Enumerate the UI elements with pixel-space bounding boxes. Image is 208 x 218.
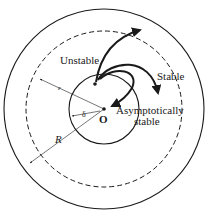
origin-label: O (99, 113, 108, 125)
initial-state-point (93, 82, 97, 86)
stable-trajectory (98, 65, 158, 93)
R-radius-line (30, 109, 104, 163)
asymptotically-stable-label-line2: stable (134, 115, 160, 127)
origin-point (102, 107, 106, 111)
unstable-label: Unstable (60, 54, 99, 66)
stable-label: Stable (157, 70, 185, 82)
stability-diagram: Unstable Stable Asymptotically stable O … (0, 0, 208, 218)
epsilon-label: ε (58, 84, 61, 92)
delta-label: δ (82, 110, 86, 119)
radius-label: R (54, 133, 62, 145)
